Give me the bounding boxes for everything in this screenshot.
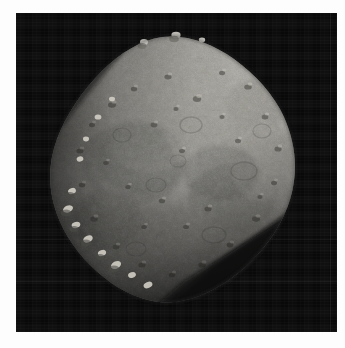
space-background-frame: [16, 13, 337, 332]
asteroid-ryugu-image: [16, 13, 337, 332]
image-viewer: Asteroid Ryugu Spinning-top shaped near-…: [0, 0, 345, 348]
asteroid-body: [16, 13, 337, 332]
asteroid-container: [16, 13, 337, 332]
